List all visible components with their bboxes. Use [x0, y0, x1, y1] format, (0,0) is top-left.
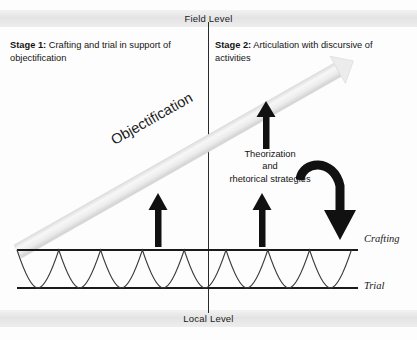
stage2-lower-up-arrow-icon	[250, 193, 274, 247]
curved-down-arrow-icon	[296, 158, 374, 248]
stage-1-caption: Stage 1: Crafting and trial in support o…	[10, 39, 195, 65]
stage-1-key: Stage 1:	[10, 40, 46, 50]
diagram-canvas: Field Level Local Level Objectification …	[0, 0, 417, 340]
local-level-label: Local Level	[183, 313, 233, 324]
objectification-label: Objectification	[108, 89, 195, 148]
trial-label: Trial	[364, 280, 384, 291]
stage1-up-arrow-icon	[146, 193, 170, 247]
crafting-trial-wave	[0, 240, 417, 302]
crafting-label: Crafting	[364, 233, 400, 244]
sine-wave-path	[17, 250, 351, 288]
stage-2-caption: Stage 2: Articulation with discursive of…	[215, 39, 400, 65]
stage2-upper-up-arrow-icon	[254, 101, 278, 149]
stage-2-key: Stage 2:	[215, 40, 251, 50]
